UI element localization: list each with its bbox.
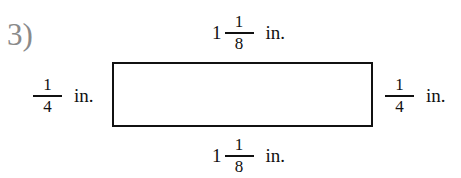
right-denominator: 4 bbox=[395, 98, 404, 116]
top-numerator: 1 bbox=[235, 13, 244, 31]
left-unit: in. bbox=[74, 86, 94, 105]
bottom-denominator: 8 bbox=[235, 158, 244, 176]
left-fraction: 1 4 bbox=[33, 76, 62, 116]
right-side-label: 1 4 in. bbox=[385, 76, 446, 116]
top-whole-number: 1 bbox=[212, 23, 222, 42]
top-fraction: 1 8 bbox=[225, 13, 254, 53]
rectangle-figure bbox=[112, 62, 373, 127]
bottom-unit: in. bbox=[266, 146, 286, 165]
bottom-whole-number: 1 bbox=[212, 146, 222, 165]
bottom-numerator: 1 bbox=[235, 136, 244, 154]
left-denominator: 4 bbox=[43, 98, 52, 116]
left-side-label: 1 4 in. bbox=[33, 76, 94, 116]
left-numerator: 1 bbox=[43, 76, 52, 94]
right-fraction: 1 4 bbox=[385, 76, 414, 116]
top-unit: in. bbox=[266, 23, 286, 42]
right-numerator: 1 bbox=[395, 76, 404, 94]
top-denominator: 8 bbox=[235, 35, 244, 53]
bottom-fraction: 1 8 bbox=[225, 136, 254, 176]
top-side-label: 1 1 8 in. bbox=[212, 13, 285, 53]
bottom-side-label: 1 1 8 in. bbox=[212, 136, 285, 176]
right-unit: in. bbox=[426, 86, 446, 105]
problem-number: 3) bbox=[7, 17, 33, 53]
